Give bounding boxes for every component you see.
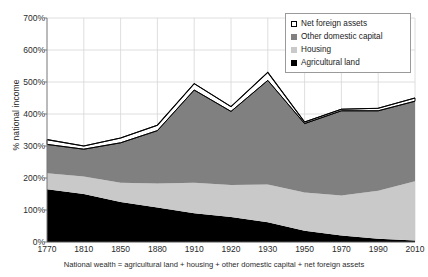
legend-item-label: Agricultural land [301,58,360,67]
legend-item[interactable]: Housing [291,43,406,56]
chart-root: % national income 0%100%200%300%400%500%… [0,0,428,277]
legend-item[interactable]: Net foreign assets [291,17,406,30]
legend-item-label: Net foreign assets [301,19,367,28]
x-tick-label: 2010 [406,244,425,254]
chart-caption: National wealth = agricultural land + ho… [0,260,428,269]
x-tick-label: 1850 [111,244,130,254]
x-tick-label: 1770 [38,244,57,254]
x-tick-label: 1810 [74,244,93,254]
x-tick-label: 1910 [185,244,204,254]
x-tick-label: 1970 [332,244,351,254]
x-tick-label: 1990 [369,244,388,254]
legend-item[interactable]: Agricultural land [291,56,406,69]
legend-item-label: Other domestic capital [301,32,382,41]
legend-item-label: Housing [301,45,331,54]
x-tick-label: 1950 [295,244,314,254]
legend-swatch-dark-gray [291,34,297,40]
x-tick-label: 1920 [222,244,241,254]
legend-swatch-black [291,60,297,66]
legend-item[interactable]: Other domestic capital [291,30,406,43]
x-tick-label: 1930 [258,244,277,254]
x-tick-label: 1880 [148,244,167,254]
legend-swatch-white-outline [291,21,297,27]
legend-swatch-light-gray [291,47,297,53]
chart-legend: Net foreign assetsOther domestic capital… [285,13,411,73]
